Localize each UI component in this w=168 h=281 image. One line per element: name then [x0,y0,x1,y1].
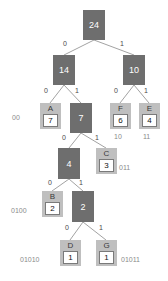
leaf-letter-B: B [50,192,55,201]
leaf-value-F: 6 [113,114,128,127]
internal-node-n14: 14 [53,55,75,85]
edge-bit-label-root-n14: 0 [63,40,67,48]
edge-bit-label-n10-E: 1 [144,87,148,95]
leaf-node-E: E4 [139,103,160,129]
edge-bit-label-root-n10: 1 [120,40,124,48]
leaf-letter-E: E [147,104,152,113]
internal-node-n2: 2 [72,191,94,222]
leaf-value-E: 4 [142,114,157,127]
tree-edge-n14-A [50,85,64,103]
edge-bit-label-n7-C: 1 [95,134,99,142]
huffman-tree-diagram: 241410742A7F6E4C3B2D1G1 010101010101 001… [0,0,168,281]
leaf-value-A: 7 [43,114,58,127]
leaf-value-G: 1 [99,251,114,264]
leaf-value-C: 3 [99,159,114,172]
leaf-letter-A: A [48,104,53,113]
leaf-letter-G: G [103,241,109,250]
binary-code-D: 01010 [20,256,39,264]
binary-code-A: 00 [12,114,20,122]
internal-node-n10: 10 [123,55,145,85]
tree-edge-root-n10 [94,40,134,55]
tree-edge-n4-B [52,179,69,191]
tree-edge-n2-D [70,222,83,240]
tree-edge-root-n14 [64,40,94,55]
leaf-letter-F: F [118,104,123,113]
tree-edge-n10-F [120,85,134,103]
edge-bit-label-n14-n7: 1 [75,87,79,95]
leaf-value-D: 1 [63,251,78,264]
edge-bit-label-n14-A: 0 [44,87,48,95]
edge-bit-label-n10-F: 0 [114,87,118,95]
binary-code-G: 01011 [121,256,140,264]
tree-edge-n7-C [81,133,106,148]
binary-code-F: 10 [114,133,122,141]
leaf-node-G: G1 [96,240,117,266]
leaf-letter-C: C [104,149,110,158]
internal-node-n7: 7 [70,103,92,133]
binary-code-C: 011 [119,164,130,172]
leaf-node-F: F6 [110,103,131,129]
edge-bit-label-n4-n2: 1 [79,179,83,187]
internal-node-root: 24 [83,10,105,40]
edge-bit-label-n2-G: 1 [99,224,103,232]
leaf-node-D: D1 [60,240,81,266]
binary-code-B: 0100 [11,207,27,215]
tree-edge-n7-n4 [69,133,81,148]
edge-bit-label-n2-D: 0 [65,224,69,232]
edge-bit-label-n4-B: 0 [48,179,52,187]
leaf-letter-D: D [68,241,74,250]
leaf-node-B: B2 [42,191,63,217]
internal-node-n4: 4 [58,148,80,179]
leaf-node-C: C3 [96,148,117,174]
binary-code-E: 11 [143,133,150,141]
leaf-node-A: A7 [40,103,61,129]
leaf-value-B: 2 [45,202,60,215]
edge-bit-label-n7-n4: 0 [62,134,66,142]
